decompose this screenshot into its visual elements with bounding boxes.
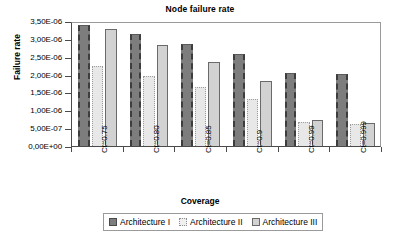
legend-label: Architecture III [263,217,318,227]
x-axis-tick-mark [174,147,175,152]
plot-area [71,22,381,147]
x-axis-tick-label: Ct=0.9 [255,130,264,153]
bar-architecture-i[interactable] [233,54,245,146]
bar-architecture-i[interactable] [181,44,193,146]
legend-label: Architecture I [120,217,170,227]
bar-group [124,23,176,146]
legend-swatch-icon [252,218,260,226]
chart-legend: Architecture IArchitecture IIArchitectur… [103,213,323,231]
legend-item[interactable]: Architecture III [252,217,318,227]
y-axis-tick-label: 1,00E-06 [30,106,62,115]
legend-label: Architecture II [190,217,242,227]
legend-swatch-icon [179,218,187,226]
x-axis-tick-mark [123,147,124,152]
y-axis-tick-label: 2,50E-06 [30,53,62,62]
x-axis-tick-mark [381,147,382,152]
x-axis-tick-label: Ct=0.999 [359,121,368,153]
bar-architecture-i[interactable] [336,74,348,146]
bar-architecture-i[interactable] [285,73,297,146]
x-axis-tick-label: Ct=0.80 [152,125,161,153]
bar-group [227,23,279,146]
x-axis-tick-mark [278,147,279,152]
legend-item[interactable]: Architecture II [179,217,242,227]
x-axis-tick-mark [71,147,72,152]
y-axis-tick-label: 3,00E-06 [30,35,62,44]
bar-group [330,23,382,146]
bar-architecture-i[interactable] [78,25,90,146]
x-axis-tick-mark [329,147,330,152]
x-axis-title: Coverage [0,196,400,206]
x-axis-tick-mark [226,147,227,152]
x-axis-tick-label: Ct=0.99 [307,125,316,153]
y-axis-title: Failure rate [12,2,22,112]
y-axis-tick-label: 3,50E-06 [30,17,62,26]
bar-group [175,23,227,146]
x-axis-tick-label: Ct=0.75 [100,125,109,153]
chart-title: Node failure rate [0,4,400,14]
chart-container: Node failure rate Failure rate 0,00E+005… [0,0,400,250]
bar-group [72,23,124,146]
y-axis-tick-label: 1,50E-06 [30,88,62,97]
y-axis-tick-label: 0,00E+00 [28,142,62,151]
y-axis-tick-label: 2,00E-06 [30,71,62,80]
bar-group [279,23,331,146]
bars-layer [72,23,380,146]
legend-swatch-icon [109,218,117,226]
legend-item[interactable]: Architecture I [109,217,170,227]
x-axis-tick-label: Ct=0.85 [204,125,213,153]
y-axis-tick-label: 5,00E-07 [30,124,62,133]
bar-architecture-i[interactable] [130,34,142,146]
